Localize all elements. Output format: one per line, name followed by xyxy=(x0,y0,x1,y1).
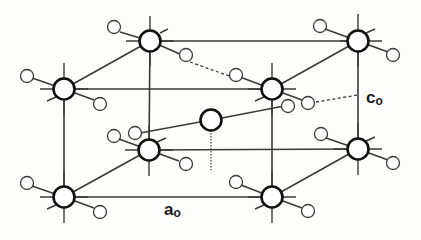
c-axis-label: co xyxy=(366,88,383,108)
dashed-bond xyxy=(190,62,232,77)
c-axis-subscript: o xyxy=(375,94,382,108)
a-axis-subscript: o xyxy=(173,206,180,220)
c-axis-dashed-leader xyxy=(316,95,358,102)
a-axis-label: ao xyxy=(164,200,181,220)
unit-cell-drawing xyxy=(0,0,421,240)
crystal-structure-diagram: ao co xyxy=(0,0,421,240)
